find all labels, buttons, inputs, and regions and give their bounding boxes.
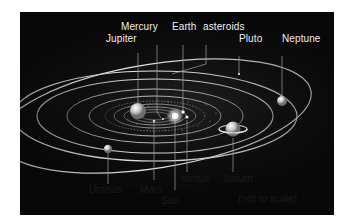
- label-mars: Mars: [140, 185, 163, 195]
- label-jupiter: Jupiter: [106, 34, 137, 44]
- label-uranus: Uranus: [89, 185, 122, 195]
- body-venus: [186, 116, 189, 119]
- body-jupiter: [130, 103, 146, 119]
- label-neptune: Neptune: [282, 34, 321, 44]
- label-sun: Sun: [161, 196, 179, 206]
- label-earth: Earth: [172, 22, 196, 32]
- label-pluto: Pluto: [239, 34, 262, 44]
- body-sun: [172, 113, 178, 119]
- body-pluto: [238, 73, 240, 75]
- body-saturn: [219, 122, 247, 137]
- solar-system-figure: Jupiter Mercury Earth asteroids Pluto Ne…: [20, 12, 334, 215]
- label-asteroids: asteroids: [203, 22, 244, 32]
- scale-note: (not to scale): [238, 194, 297, 204]
- figure-canvas: Jupiter Mercury Earth asteroids Pluto Ne…: [0, 0, 354, 219]
- label-venus: Venus: [181, 174, 209, 184]
- label-saturn: Saturn: [223, 174, 253, 184]
- body-mercury: [162, 118, 164, 120]
- body-uranus: [104, 145, 112, 153]
- body-mars: [153, 120, 156, 123]
- body-earth: [181, 110, 184, 113]
- body-neptune: [277, 96, 287, 106]
- label-mercury: Mercury: [121, 22, 158, 32]
